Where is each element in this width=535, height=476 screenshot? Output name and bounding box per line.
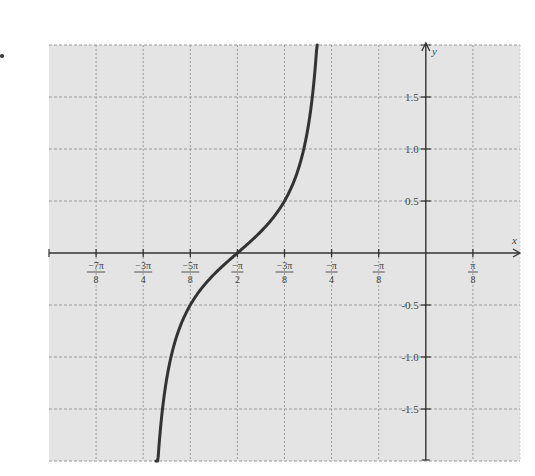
- y-tick-label: 1.5: [405, 91, 419, 103]
- x-tick-denominator: 8: [470, 274, 475, 285]
- y-axis-label: y: [431, 45, 437, 57]
- x-tick-denominator: 4: [141, 274, 146, 285]
- x-tick-denominator: 2: [235, 274, 240, 285]
- x-tick-denominator: 8: [282, 274, 287, 285]
- y-tick-label: 1.0: [405, 143, 419, 155]
- x-tick-numerator: −π: [326, 260, 337, 271]
- x-tick-denominator: 8: [94, 274, 99, 285]
- x-tick-numerator: −3π: [135, 260, 151, 271]
- x-tick-denominator: 8: [376, 274, 381, 285]
- x-tick-numerator: −π: [373, 260, 384, 271]
- x-axis-label: x: [511, 234, 517, 246]
- y-tick-label: -1.5: [401, 403, 419, 415]
- x-tick-denominator: 4: [329, 274, 334, 285]
- y-tick-label: 0.5: [405, 195, 419, 207]
- x-tick-numerator: −3π: [277, 260, 293, 271]
- x-tick-numerator: −5π: [182, 260, 198, 271]
- y-tick-label: -1.0: [401, 351, 419, 363]
- chart: −7π8−3π4−5π8−π2−3π8−π4−π8π8 1.51.00.5-0.…: [0, 0, 535, 476]
- x-tick-numerator: π: [470, 260, 475, 271]
- x-tick-numerator: −π: [232, 260, 243, 271]
- y-tick-label: -0.5: [401, 299, 419, 311]
- x-tick-denominator: 8: [188, 274, 193, 285]
- x-tick-numerator: −7π: [88, 260, 104, 271]
